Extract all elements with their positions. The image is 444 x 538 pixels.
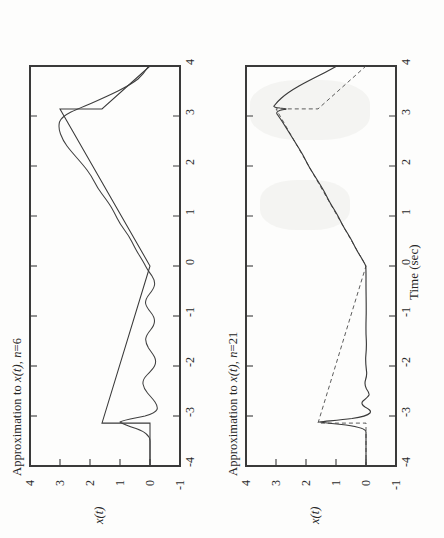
x-tick-label: 2	[183, 152, 198, 172]
plot-title-n21: Approximation to x(t), n=21	[226, 332, 241, 476]
y-tick-marks	[246, 459, 396, 466]
x-tick-label: 2	[399, 152, 414, 172]
x-tick-label: 1	[183, 202, 198, 222]
y-tick-label: 3	[53, 480, 68, 502]
x-tick-label: 1	[399, 202, 414, 222]
x-tick-label: -1	[183, 302, 198, 322]
y-axis-label-n6: x(t)	[92, 507, 107, 524]
plot-panel-n21: Approximation to x(t), n=21 x(t)	[224, 0, 429, 538]
y-tick-label: 2	[299, 480, 314, 502]
title-n-value: =6	[10, 338, 24, 352]
plot-panel-n6: Approximation to x(t), n=6 x(t)	[8, 0, 213, 538]
axes-n6	[28, 46, 180, 476]
title-n-symbol: n	[226, 351, 240, 357]
ideal-signal-curve-n6	[60, 66, 150, 466]
y-tick-marks	[30, 459, 180, 466]
ideal-signal-curve-n21	[276, 66, 366, 466]
x-tick-label: 3	[399, 102, 414, 122]
axes-frame	[246, 66, 396, 466]
y-tick-label: 1	[329, 480, 344, 502]
title-signal-var: x(t)	[226, 364, 240, 382]
x-tick-label: -2	[183, 352, 198, 372]
x-tick-label: 4	[183, 52, 198, 72]
x-tick-label: 4	[399, 52, 414, 72]
x-tick-label: -3	[183, 402, 198, 422]
y-tick-label: 1	[113, 480, 128, 502]
rotated-figure-container: Approximation to x(t), n=6 x(t)	[0, 0, 444, 538]
y-tick-label: -1	[389, 480, 404, 502]
x-tick-label: -1	[399, 302, 414, 322]
title-signal-var: x(t)	[10, 364, 24, 382]
y-tick-label: -1	[173, 480, 188, 502]
x-tick-marks	[246, 66, 396, 466]
plot-title-n6: Approximation to x(t), n=6	[10, 338, 25, 476]
y-tick-label: 0	[143, 480, 158, 502]
fourier-approx-curve-n6	[59, 67, 157, 466]
x-tick-label: -2	[399, 352, 414, 372]
x-tick-label: 3	[183, 102, 198, 122]
x-tick-label: -4	[183, 452, 198, 472]
fourier-approx-curve-n21	[274, 66, 371, 466]
y-tick-label: 0	[359, 480, 374, 502]
y-tick-label: 4	[239, 480, 254, 502]
y-tick-label: 2	[83, 480, 98, 502]
x-axis-label: Time (sec)	[406, 245, 422, 301]
x-tick-label: -3	[399, 402, 414, 422]
y-tick-label: 3	[269, 480, 284, 502]
x-tick-label: -4	[399, 452, 414, 472]
figure-page: Approximation to x(t), n=6 x(t)	[0, 0, 444, 538]
title-n-value: =21	[226, 332, 240, 352]
y-axis-label-n21: x(t)	[308, 507, 323, 524]
title-n-symbol: n	[10, 351, 24, 357]
axes-n21	[244, 46, 396, 476]
y-tick-label: 4	[23, 480, 38, 502]
x-tick-label: 0	[183, 252, 198, 272]
